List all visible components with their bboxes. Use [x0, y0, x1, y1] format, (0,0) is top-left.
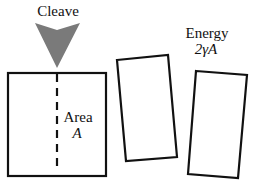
area-label: Area: [63, 110, 92, 125]
cleave-wedge-icon: [35, 23, 80, 68]
area-symbol: A: [72, 126, 81, 141]
fragment-right: [188, 71, 247, 178]
fragment-left: [117, 55, 177, 161]
energy-label: Energy: [185, 26, 228, 41]
cleave-label: Cleave: [37, 4, 79, 19]
energy-formula: 2γA: [195, 42, 218, 57]
